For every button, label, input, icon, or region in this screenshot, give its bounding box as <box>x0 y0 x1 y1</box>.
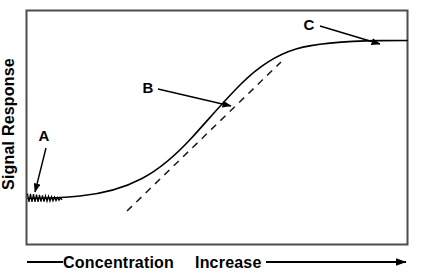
figure-container: A B C Signal Response Concentration Incr… <box>0 0 421 276</box>
annotation-label-a: A <box>39 127 50 144</box>
plot-frame <box>27 11 408 245</box>
x-axis-title-part1: Concentration <box>63 254 174 271</box>
calibration-curve-figure: A B C Signal Response Concentration Incr… <box>0 0 421 276</box>
x-axis-title-part2: Increase <box>195 254 262 271</box>
annotation-label-c: C <box>304 16 315 33</box>
y-axis-title: Signal Response <box>0 58 17 190</box>
annotation-label-b: B <box>143 79 154 96</box>
